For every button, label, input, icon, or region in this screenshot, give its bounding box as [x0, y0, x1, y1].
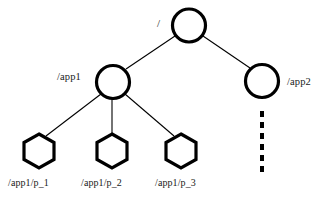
node-app2-circle[interactable] — [246, 65, 279, 98]
tree-diagram: / /app1 /app2 /app1/p_1 /app1/p_2 /app1/… — [0, 0, 328, 198]
node-p2-hexagon[interactable] — [97, 134, 127, 168]
node-label-p1: /app1/p_1 — [8, 178, 49, 188]
node-label-p3: /app1/p_3 — [155, 178, 196, 188]
node-root-circle[interactable] — [173, 9, 206, 42]
edge-root-to-app2 — [203, 36, 250, 68]
node-label-p2: /app1/p_2 — [81, 178, 122, 188]
edge-app1-to-p1 — [46, 94, 101, 136]
node-app1-circle[interactable] — [97, 66, 130, 99]
node-p3-hexagon[interactable] — [166, 134, 196, 168]
edge-root-to-app1 — [126, 36, 175, 69]
edge-app1-to-p3 — [125, 94, 174, 136]
tree-diagram-canvas — [0, 0, 328, 198]
node-label-app1: /app1 — [57, 72, 81, 83]
node-label-root: / — [157, 18, 160, 29]
edge-group — [46, 36, 250, 136]
node-label-app2: /app2 — [287, 77, 311, 88]
node-p1-hexagon[interactable] — [24, 134, 54, 168]
